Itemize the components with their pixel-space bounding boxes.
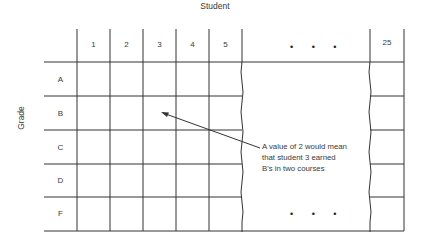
row-label-b: B: [44, 109, 77, 118]
row-label-d: D: [44, 176, 77, 185]
annotation-line-1: A value of 2 would mean: [262, 141, 347, 152]
column-header-1: 1: [77, 40, 110, 49]
column-header-3: 3: [143, 40, 176, 49]
annotation-note: A value of 2 would mean that student 3 e…: [262, 141, 347, 174]
column-header-2: 2: [110, 40, 143, 49]
arrow-head-icon: [161, 112, 169, 117]
annotation-line-3: B's in two courses: [262, 163, 347, 174]
column-ellipsis: • • •: [290, 42, 344, 52]
annotation-line-2: that student 3 earned: [262, 152, 347, 163]
row-label-a: A: [44, 75, 77, 84]
row-ellipsis: • • •: [290, 209, 344, 219]
chart-title: Student: [190, 1, 240, 11]
grade-student-grid: [0, 0, 424, 241]
column-header-25: 25: [370, 38, 404, 47]
column-header-5: 5: [209, 40, 242, 49]
row-label-f: F: [44, 209, 77, 218]
row-label-c: C: [44, 143, 77, 152]
column-header-4: 4: [176, 40, 209, 49]
y-axis-label: Grade: [16, 103, 26, 133]
